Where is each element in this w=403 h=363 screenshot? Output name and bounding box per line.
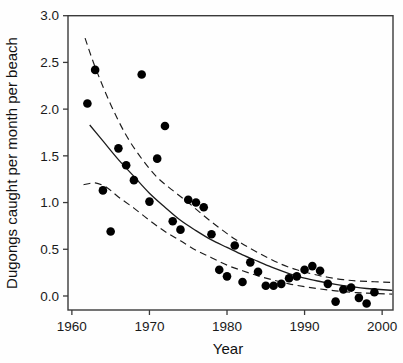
data-point	[277, 280, 286, 289]
data-point	[347, 283, 356, 292]
data-point	[168, 217, 177, 226]
data-point	[223, 272, 232, 281]
data-point	[362, 299, 371, 308]
data-point	[339, 285, 348, 294]
y-tick-label: 0.5	[40, 242, 59, 257]
data-point	[246, 258, 255, 267]
data-point	[331, 297, 340, 306]
data-point	[269, 281, 278, 290]
plot-frame	[68, 16, 393, 310]
y-axis-title: Dugongs caught per month per beach	[3, 37, 20, 289]
data-point	[370, 288, 379, 297]
x-tick-label: 1970	[134, 319, 164, 334]
data-point	[130, 176, 139, 185]
fitted-curve	[90, 125, 393, 290]
y-tick-label: 2.0	[40, 102, 59, 117]
data-point	[199, 203, 208, 212]
data-point	[176, 225, 185, 234]
x-tick-label: 1960	[57, 319, 87, 334]
y-tick-label: 1.0	[40, 195, 59, 210]
data-point	[293, 272, 302, 281]
x-tick-label: 1980	[212, 319, 242, 334]
data-point	[300, 266, 309, 275]
data-point	[122, 161, 131, 170]
data-point	[106, 227, 115, 236]
scatter-plot-svg: 196019701980199020000.00.51.01.52.02.53.…	[0, 0, 403, 363]
x-tick-label: 2000	[367, 319, 397, 334]
y-tick-label: 3.0	[40, 8, 59, 23]
dugong-catch-figure: 196019701980199020000.00.51.01.52.02.53.…	[0, 0, 403, 363]
data-point	[238, 278, 247, 287]
data-point	[192, 198, 201, 207]
data-point	[83, 99, 92, 108]
data-point	[308, 262, 317, 271]
data-point	[91, 66, 100, 75]
data-point	[254, 267, 263, 276]
lower-confidence-band	[84, 183, 393, 294]
x-axis-title: Year	[213, 340, 243, 357]
data-point	[184, 195, 193, 204]
data-point	[161, 122, 170, 131]
data-point	[230, 241, 239, 250]
data-point	[355, 294, 364, 303]
y-tick-label: 1.5	[40, 149, 59, 164]
data-point	[137, 70, 146, 79]
data-point	[114, 144, 123, 153]
data-point	[153, 154, 162, 163]
observed-catches	[83, 66, 379, 308]
data-point	[324, 280, 333, 289]
data-point	[215, 266, 224, 275]
y-tick-label: 0.0	[40, 289, 59, 304]
data-point	[285, 274, 294, 283]
x-tick-label: 1990	[290, 319, 320, 334]
data-point	[261, 281, 270, 290]
y-axis: 0.00.51.01.52.02.53.0	[40, 8, 68, 303]
data-point	[316, 266, 325, 275]
y-tick-label: 2.5	[40, 55, 59, 70]
data-point	[99, 186, 108, 195]
data-point	[145, 197, 154, 206]
data-point	[207, 230, 216, 239]
x-axis: 19601970198019902000	[57, 310, 397, 334]
